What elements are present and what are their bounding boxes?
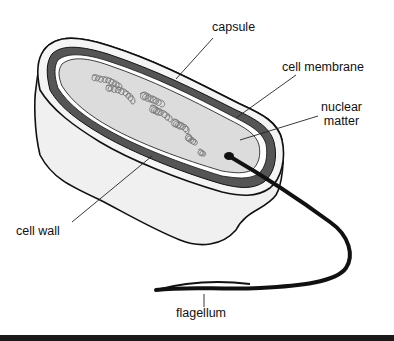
label-nuclear-matter-line1: nuclear <box>321 100 362 114</box>
label-nuclear-matter-line2: matter <box>321 114 362 128</box>
label-flagellum: flagellum <box>176 306 226 320</box>
label-cell-membrane: cell membrane <box>282 60 364 74</box>
label-nuclear-matter: nuclear matter <box>321 100 362 128</box>
bacterium-diagram <box>0 0 394 341</box>
label-cell-wall: cell wall <box>16 224 60 238</box>
label-capsule: capsule <box>212 20 255 34</box>
bottom-border <box>0 335 394 341</box>
